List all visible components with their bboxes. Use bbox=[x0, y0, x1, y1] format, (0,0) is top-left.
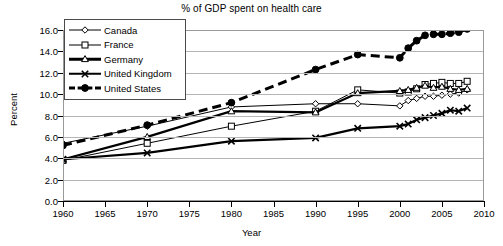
x-axis-tick-label: 1960 bbox=[43, 208, 83, 219]
y-axis-tick-label: 6.0 bbox=[28, 131, 58, 142]
y-axis-tick bbox=[58, 51, 63, 52]
y-axis-tick bbox=[58, 116, 63, 117]
y-axis-tick-label: 8.0 bbox=[28, 110, 58, 121]
y-axis-tick-label: 12.0 bbox=[28, 67, 58, 78]
legend-label: United States bbox=[102, 83, 161, 94]
gridline bbox=[64, 116, 483, 117]
x-axis-tick bbox=[400, 202, 401, 207]
legend-item-united-states[interactable]: United States bbox=[68, 81, 181, 96]
x-axis-tick bbox=[147, 202, 148, 207]
legend-swatch bbox=[68, 52, 102, 66]
x-axis-tick bbox=[63, 202, 64, 207]
gridline bbox=[64, 158, 483, 159]
x-axis-tick bbox=[442, 202, 443, 207]
x-axis-tick-label: 1965 bbox=[85, 208, 125, 219]
y-axis-title: Percent bbox=[8, 80, 19, 140]
x-axis-tick-label: 1995 bbox=[338, 208, 378, 219]
legend-label: Germany bbox=[102, 54, 143, 65]
x-axis-tick bbox=[316, 202, 317, 207]
y-axis-tick-label: 0.0 bbox=[28, 196, 58, 207]
y-axis-tick-label: 10.0 bbox=[28, 89, 58, 100]
y-axis-tick bbox=[58, 137, 63, 138]
x-axis-tick-label: 2000 bbox=[380, 208, 420, 219]
legend-item-united-kingdom[interactable]: United Kingdom bbox=[68, 67, 181, 82]
x-axis-tick bbox=[484, 202, 485, 207]
x-axis-tick-label: 1980 bbox=[211, 208, 251, 219]
gridline bbox=[64, 137, 483, 138]
x-axis-tick-label: 1990 bbox=[296, 208, 336, 219]
y-axis-tick-label: 2.0 bbox=[28, 174, 58, 185]
x-axis-tick-label: 1975 bbox=[169, 208, 209, 219]
y-axis-tick-label: 16.0 bbox=[28, 25, 58, 36]
x-axis-tick bbox=[189, 202, 190, 207]
legend-label: United Kingdom bbox=[102, 68, 172, 79]
x-axis-tick-label: 1970 bbox=[127, 208, 167, 219]
y-axis-tick-label: 4.0 bbox=[28, 153, 58, 164]
x-axis-tick-label: 1985 bbox=[254, 208, 294, 219]
legend-swatch bbox=[68, 67, 102, 81]
legend-swatch bbox=[68, 38, 102, 52]
y-axis-tick-label: 14.0 bbox=[28, 46, 58, 57]
legend-marker-x-cross bbox=[78, 67, 92, 81]
y-axis-tick bbox=[58, 94, 63, 95]
x-axis-tick-label: 2005 bbox=[422, 208, 462, 219]
x-axis-tick bbox=[358, 202, 359, 207]
x-axis-tick bbox=[231, 202, 232, 207]
x-axis-title: Year bbox=[0, 227, 503, 238]
chart-legend: CanadaFranceGermanyUnited KingdomUnited … bbox=[64, 19, 186, 100]
legend-marker-open-triangle bbox=[78, 52, 92, 66]
legend-swatch bbox=[68, 81, 102, 95]
legend-marker-open-diamond bbox=[78, 23, 92, 37]
x-axis-tick-label: 2010 bbox=[464, 208, 503, 219]
y-axis-tick bbox=[58, 180, 63, 181]
y-axis-tick bbox=[58, 158, 63, 159]
gridline bbox=[64, 180, 483, 181]
legend-item-canada[interactable]: Canada bbox=[68, 23, 181, 38]
y-axis-tick bbox=[58, 73, 63, 74]
legend-item-france[interactable]: France bbox=[68, 38, 181, 53]
legend-label: Canada bbox=[102, 25, 137, 36]
legend-marker-filled-circle bbox=[78, 81, 92, 95]
x-axis-tick bbox=[105, 202, 106, 207]
legend-item-germany[interactable]: Germany bbox=[68, 52, 181, 67]
x-axis-tick bbox=[274, 202, 275, 207]
legend-marker-open-square bbox=[78, 38, 92, 52]
legend-label: France bbox=[102, 39, 134, 50]
y-axis-tick bbox=[58, 30, 63, 31]
legend-swatch bbox=[68, 23, 102, 37]
chart-title: % of GDP spent on health care bbox=[0, 3, 503, 14]
health-care-gdp-chart: % of GDP spent on health care Percent 0.… bbox=[0, 0, 503, 246]
